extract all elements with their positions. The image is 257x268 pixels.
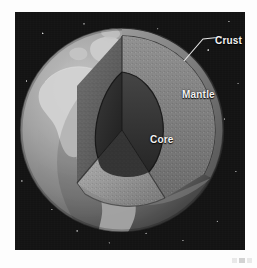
scan-artifact-mark bbox=[232, 258, 252, 263]
label-core: Core bbox=[150, 135, 174, 145]
space-background-panel: Crust Mantle Core bbox=[15, 12, 245, 250]
label-crust: Crust bbox=[215, 36, 242, 46]
label-mantle: Mantle bbox=[182, 90, 215, 100]
figure-root: Crust Mantle Core bbox=[0, 0, 257, 268]
